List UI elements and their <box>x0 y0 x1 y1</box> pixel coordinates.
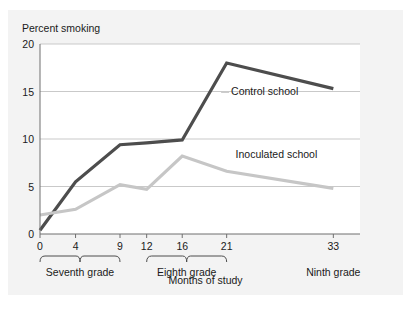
y-tick-label: 15 <box>8 86 34 98</box>
x-tick-label: 12 <box>141 240 153 252</box>
x-tick-label: 33 <box>327 240 339 252</box>
y-tick-label: 10 <box>8 133 34 145</box>
group-brackets <box>40 256 227 262</box>
series-label: Inoculated school <box>236 148 318 160</box>
x-tick-label: 4 <box>73 240 79 252</box>
series-label: Control school <box>231 85 298 97</box>
x-tick-label: 9 <box>117 240 123 252</box>
line-chart: Percent smoking 05101520 04912162133 Sev… <box>0 0 411 313</box>
x-tick-label: 0 <box>37 240 43 252</box>
x-group-bracket <box>40 256 120 262</box>
x-axis-title: Months of study <box>0 274 411 286</box>
x-group-bracket <box>147 256 227 262</box>
y-tick-label: 5 <box>8 181 34 193</box>
x-tick-label: 16 <box>176 240 188 252</box>
x-tick-label: 21 <box>221 240 233 252</box>
y-tick-label: 0 <box>8 228 34 240</box>
tick-marks <box>40 234 333 238</box>
y-tick-label: 20 <box>8 38 34 50</box>
